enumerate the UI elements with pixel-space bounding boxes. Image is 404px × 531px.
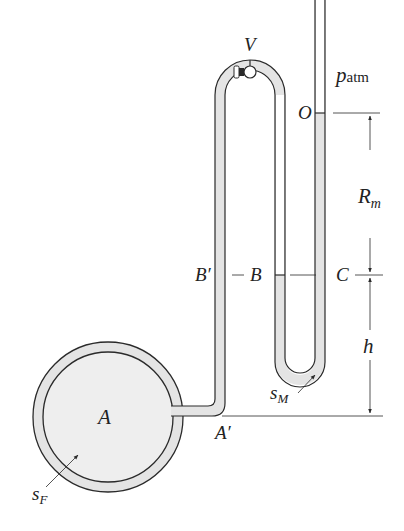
label-b-prime: B′	[195, 264, 212, 285]
label-b: B	[250, 264, 262, 285]
label-patm: patm	[334, 63, 369, 87]
label-a-prime: A′	[213, 422, 232, 443]
label-o: O	[298, 102, 312, 123]
label-rm: Rm	[357, 184, 381, 211]
label-c: C	[336, 264, 349, 285]
dimension-lines	[222, 113, 383, 416]
label-v: V	[244, 34, 258, 55]
connecting-tube	[171, 0, 325, 416]
label-sm: sM	[270, 382, 289, 406]
manometer-diagram: V patm O Rm B′ B C h sM A A′ sF	[0, 0, 404, 531]
label-a: A	[96, 405, 111, 429]
label-h: h	[363, 334, 374, 358]
